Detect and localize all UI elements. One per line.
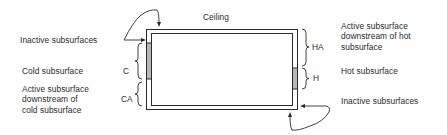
hot-active-line-1: Active subsurface: [341, 21, 411, 31]
inner-wall: [152, 34, 293, 106]
segment-code-c: C: [123, 66, 129, 76]
brace-h-icon: [302, 68, 309, 89]
hot-subsurface-strip: [293, 68, 298, 89]
arrowhead-down-icon: [157, 22, 161, 27]
cold-active-line-3: cold subsurface: [22, 105, 89, 115]
hot-subsurface-label: Hot subsurface: [341, 66, 398, 76]
inactive-top-curve: [124, 10, 159, 40]
inactive-top-arrows: [124, 10, 159, 40]
outer-wall: [147, 30, 298, 110]
hot-active-label: Active subsurface downstream of hot subs…: [341, 21, 411, 52]
hot-active-line-2: downstream of hot: [341, 31, 411, 41]
segment-code-ha: HA: [312, 42, 324, 52]
cold-subsurface-label: Cold subsurface: [22, 66, 83, 76]
cold-active-line-2: downstream of: [22, 94, 89, 104]
arrowhead-left-icon: [300, 104, 305, 108]
brace-ha-icon: [302, 29, 309, 66]
cold-subsurface-strip: [147, 43, 152, 79]
inactive-top-label: Inactive subsurfaces: [20, 35, 97, 45]
cold-active-label: Active subsurface downstream of cold sub…: [22, 84, 89, 115]
brace-ca-icon: [135, 82, 142, 106]
brace-c-icon: [135, 43, 142, 79]
ceiling-label: Ceiling: [203, 12, 229, 22]
arrowhead-right-icon: [141, 38, 146, 42]
room-walls: [147, 30, 298, 110]
right-braces: [302, 29, 309, 89]
inactive-bottom-label: Inactive subsurfaces: [341, 96, 418, 106]
cold-active-line-1: Active subsurface: [22, 84, 89, 94]
segment-code-h: H: [313, 73, 319, 83]
arrowhead-up-icon: [288, 112, 292, 117]
segment-code-ca: CA: [121, 94, 133, 104]
left-braces: [135, 43, 142, 106]
hot-active-line-3: subsurface: [341, 42, 411, 52]
